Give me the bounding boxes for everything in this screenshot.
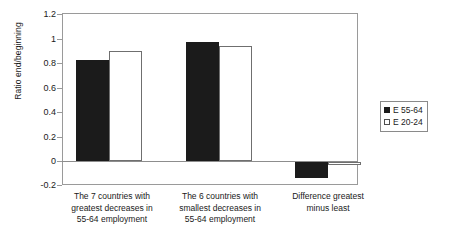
y-tick-label: 1.2 [6, 8, 56, 20]
x-category-label-3: Difference greatest minus least [273, 191, 383, 214]
y-tick-label: 0 [6, 155, 56, 167]
legend-swatch-empty-square-icon [384, 119, 390, 125]
y-tick-label: 0.2 [6, 131, 56, 143]
bar-group3-e2024 [328, 162, 361, 165]
y-tick-label: 0.8 [6, 57, 56, 69]
legend-item-e5564: E 55-64 [384, 104, 423, 116]
bar-chart: Ratio end/beginning 1.2 1 0.8 0.6 0.4 0.… [0, 0, 452, 239]
y-tick-label: 0.4 [6, 106, 56, 118]
x-category-label-2-line1: The 6 countries with [160, 191, 280, 203]
chart-legend: E 55-64 E 20-24 [380, 101, 428, 132]
y-tick-label: -0.2 [6, 179, 56, 191]
x-category-label-1-line3: 55-64 employment [52, 214, 172, 226]
x-category-label-1-line2: greatest decreases in [52, 203, 172, 215]
legend-label-e2024: E 20-24 [393, 116, 423, 128]
bar-group2-e5564 [186, 42, 219, 161]
y-tick-mark [57, 185, 62, 186]
bar-group3-e5564 [295, 162, 328, 178]
y-tick-label: 0.6 [6, 82, 56, 94]
x-category-label-2: The 6 countries with smallest decreases … [160, 191, 280, 226]
legend-swatch-filled-square-icon [384, 107, 390, 113]
x-category-label-2-line3: 55-64 employment [160, 214, 280, 226]
legend-item-e2024: E 20-24 [384, 116, 423, 128]
x-category-label-1: The 7 countries with greatest decreases … [52, 191, 172, 226]
bar-group1-e5564 [76, 60, 109, 161]
x-category-label-3-line2: minus least [273, 203, 383, 215]
x-category-label-1-line1: The 7 countries with [52, 191, 172, 203]
y-tick-label: 1 [6, 33, 56, 45]
bar-group1-e2024 [109, 51, 142, 161]
x-category-label-3-line1: Difference greatest [273, 191, 383, 203]
x-category-label-2-line2: smallest decreases in [160, 203, 280, 215]
legend-label-e5564: E 55-64 [393, 104, 423, 116]
bar-group2-e2024 [219, 46, 252, 161]
